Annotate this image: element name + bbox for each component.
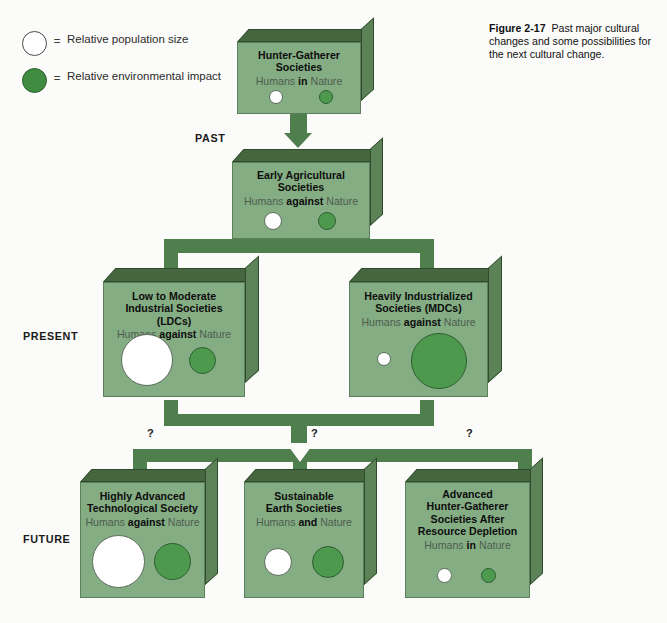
node-sustainable-earth[interactable]: Sustainable Earth Societies Humans and N… <box>244 482 364 598</box>
legend-equals-sign: = <box>47 30 67 53</box>
legend: = Relative population size = Relative en… <box>22 30 232 104</box>
merge-notch-icon <box>286 443 314 462</box>
node-title: Advanced Hunter-Gatherer Societies After… <box>409 488 526 552</box>
box-side-face <box>370 137 383 226</box>
question-mark-center: ? <box>311 427 318 439</box>
node-advanced-hunter-gatherer[interactable]: Advanced Hunter-Gatherer Societies After… <box>405 482 530 598</box>
node-title-line: Resource Depletion <box>418 525 518 537</box>
node-relation: Humans against Nature <box>236 194 366 208</box>
node-title-line: Hunter-Gatherer <box>427 500 509 512</box>
legend-equals-sign: = <box>47 67 67 90</box>
node-relation: Humans in Nature <box>241 74 357 88</box>
node-ldcs[interactable]: Low to Moderate Industrial Societies (LD… <box>103 282 245 397</box>
impact-circle <box>318 212 336 230</box>
arrowhead-hg-to-agri <box>284 133 312 148</box>
node-title-line: Societies <box>276 61 323 73</box>
node-title: Low to Moderate Industrial Societies (LD… <box>107 290 241 341</box>
connector-agri-right-drop <box>420 239 434 270</box>
box-top-face <box>237 29 373 42</box>
node-title-line: Hunter-Gatherer <box>258 49 340 61</box>
figure-canvas: = Relative population size = Relative en… <box>0 0 667 623</box>
box-top-face <box>405 469 542 482</box>
node-title-line: Technological Society <box>87 502 198 514</box>
population-circle <box>92 535 145 588</box>
box-top-face <box>232 149 382 162</box>
node-title-line: Societies <box>278 181 325 193</box>
node-title: Highly Advanced Technological Society Hu… <box>84 490 201 529</box>
node-title: Sustainable Earth Societies Humans and N… <box>248 490 360 529</box>
node-relation: Humans against Nature <box>353 315 484 329</box>
box-top-face <box>80 469 217 482</box>
node-relation: Humans in Nature <box>409 538 526 552</box>
box-top-face <box>103 268 258 282</box>
node-title-line: Early Agricultural <box>257 169 345 181</box>
node-relation: Humans against Nature <box>84 515 201 529</box>
impact-circle <box>154 543 191 580</box>
population-circle <box>264 548 292 576</box>
green-circle-icon <box>22 68 47 93</box>
node-title-line: Sustainable <box>274 490 333 502</box>
connector-agri-left-drop <box>164 239 178 270</box>
impact-circle <box>411 333 467 389</box>
node-title-line: Highly Advanced <box>100 490 186 502</box>
node-title: Hunter-Gatherer Societies Humans in Natu… <box>241 49 357 88</box>
node-mdcs[interactable]: Heavily Industrialized Societies (MDCs) … <box>349 282 488 397</box>
era-label-present: PRESENT <box>23 330 78 342</box>
legend-label-impact: Relative environmental impact <box>67 67 221 84</box>
population-circle <box>269 90 283 104</box>
impact-circle <box>319 90 333 104</box>
impact-circle <box>481 568 496 583</box>
white-circle-icon <box>22 31 47 56</box>
node-title-line: Earth Societies <box>266 502 343 514</box>
node-early-agricultural[interactable]: Early Agricultural Societies Humans agai… <box>232 162 370 239</box>
box-side-face <box>488 255 502 383</box>
node-hunter-gatherer[interactable]: Hunter-Gatherer Societies Humans in Natu… <box>237 42 361 114</box>
node-relation: Humans against Nature <box>107 327 241 341</box>
question-mark-left: ? <box>147 427 154 439</box>
population-circle <box>437 568 452 583</box>
impact-circle <box>189 347 216 374</box>
question-mark-right: ? <box>466 427 473 439</box>
connector-future-bar <box>133 449 532 462</box>
node-highly-advanced-technological[interactable]: Highly Advanced Technological Society Hu… <box>80 482 205 598</box>
box-top-face <box>349 268 501 282</box>
node-title-line: Heavily Industrialized <box>364 290 472 302</box>
legend-label-population: Relative population size <box>67 30 188 47</box>
box-side-face <box>364 457 377 585</box>
population-circle <box>121 334 173 386</box>
legend-item-population: = Relative population size <box>22 30 232 56</box>
connector-hg-to-agri-stem <box>290 112 307 134</box>
node-relation: Humans and Nature <box>248 515 360 529</box>
box-side-face <box>245 255 259 383</box>
box-top-face <box>244 469 376 482</box>
box-side-face <box>205 457 218 585</box>
era-label-future: FUTURE <box>23 533 70 545</box>
node-title-line: Industrial Societies (LDCs) <box>125 302 222 326</box>
figure-number: Figure 2-17 <box>489 22 546 34</box>
box-side-face <box>530 457 543 585</box>
connector-agri-split-bar <box>164 239 434 253</box>
node-title-line: Advanced <box>442 488 493 500</box>
node-title-line: Low to Moderate <box>132 290 216 302</box>
figure-caption: Figure 2-17 Past major cultural changes … <box>489 22 661 62</box>
box-side-face <box>361 17 374 101</box>
node-title-line: Societies (MDCs) <box>375 302 462 314</box>
population-circle <box>377 352 391 366</box>
impact-circle <box>312 546 344 578</box>
node-title: Early Agricultural Societies Humans agai… <box>236 169 366 208</box>
node-title: Heavily Industrialized Societies (MDCs) … <box>353 290 484 329</box>
population-circle <box>264 212 282 230</box>
node-title-line: Societies After <box>431 513 505 525</box>
era-label-past: PAST <box>195 132 225 144</box>
legend-item-impact: = Relative environmental impact <box>22 67 232 93</box>
